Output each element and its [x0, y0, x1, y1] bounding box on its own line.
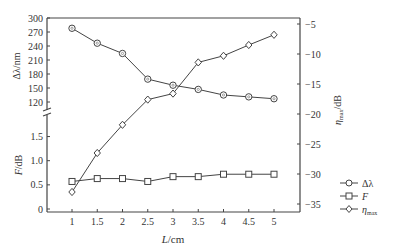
svg-text:−25: −25	[305, 139, 321, 150]
legend-item-f: F	[340, 191, 369, 202]
svg-text:270: 270	[28, 27, 43, 38]
svg-text:300: 300	[28, 13, 43, 24]
right-axis-label: ηmax/dB	[332, 95, 344, 125]
svg-text:F: F	[361, 191, 369, 202]
svg-text:0: 0	[38, 204, 43, 215]
svg-text:0.5: 0.5	[31, 179, 44, 190]
svg-text:3: 3	[171, 216, 176, 227]
svg-text:ηmax: ηmax	[362, 204, 377, 216]
svg-text:−5: −5	[305, 19, 316, 30]
svg-text:4: 4	[221, 216, 226, 227]
svg-text:2.5: 2.5	[142, 216, 155, 227]
svg-text:3.5: 3.5	[192, 216, 205, 227]
svg-text:180: 180	[28, 69, 43, 80]
legend: Δλ F ηmax	[340, 178, 377, 216]
svg-text:−35: −35	[305, 199, 321, 210]
left-bottom-axis-label: F/dB	[13, 154, 24, 176]
svg-text:1.5: 1.5	[31, 131, 44, 142]
svg-text:Δλ: Δλ	[362, 178, 373, 189]
legend-item-delta-lambda: Δλ	[340, 178, 373, 189]
svg-text:−10: −10	[305, 49, 321, 60]
svg-text:1.5: 1.5	[91, 216, 104, 227]
svg-text:150: 150	[28, 83, 43, 94]
svg-text:5: 5	[272, 216, 277, 227]
series-lines	[69, 25, 277, 196]
svg-text:4.5: 4.5	[243, 216, 256, 227]
left-top-axis-label: Δλ/nm	[11, 52, 22, 79]
x-axis-label: L/cm	[161, 233, 185, 245]
svg-text:1: 1	[70, 216, 75, 227]
plot-frame	[43, 18, 300, 212]
svg-text:−30: −30	[305, 169, 321, 180]
svg-text:1.0: 1.0	[31, 155, 44, 166]
svg-text:−15: −15	[305, 79, 321, 90]
dual-axis-line-chart: 11.522.533.544.55 120150180210240270300 …	[0, 0, 393, 249]
legend-item-eta-max: ηmax	[340, 204, 377, 216]
series-square	[69, 171, 277, 184]
svg-text:2: 2	[120, 216, 125, 227]
svg-text:210: 210	[28, 55, 43, 66]
svg-text:−20: −20	[305, 109, 321, 120]
svg-text:120: 120	[28, 97, 43, 108]
svg-text:240: 240	[28, 41, 43, 52]
